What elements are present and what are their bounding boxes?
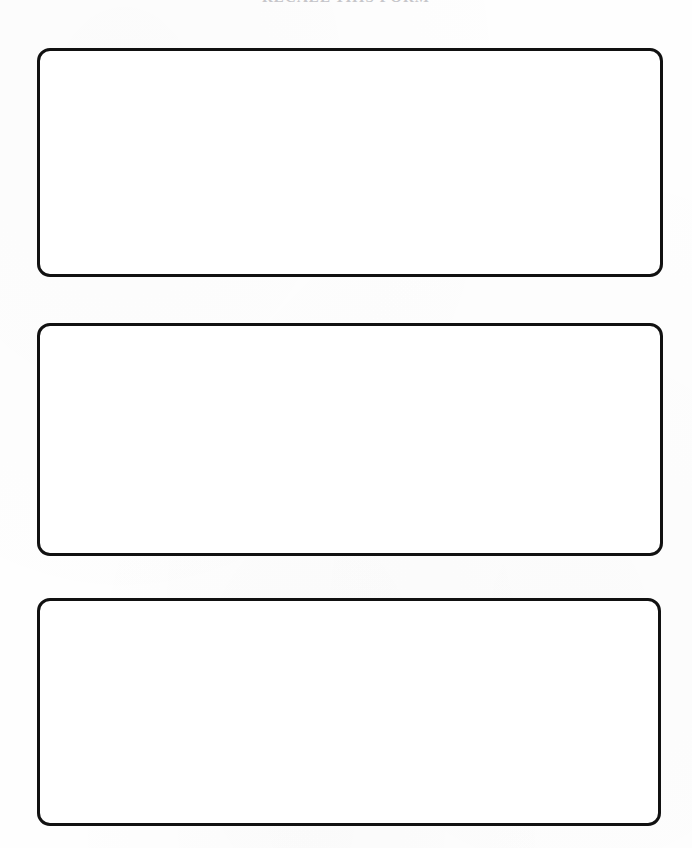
answer-box-1-content[interactable]	[40, 51, 660, 274]
worksheet-page: RECALL THIS FORM	[0, 0, 692, 848]
answer-box-3-content[interactable]	[40, 601, 658, 823]
page-title-clip: RECALL THIS FORM	[0, 0, 692, 6]
answer-box-3[interactable]	[37, 598, 661, 826]
page-title: RECALL THIS FORM	[0, 0, 692, 6]
answer-box-1[interactable]	[37, 48, 663, 277]
answer-box-2[interactable]	[37, 323, 663, 556]
answer-box-2-content[interactable]	[40, 326, 660, 553]
